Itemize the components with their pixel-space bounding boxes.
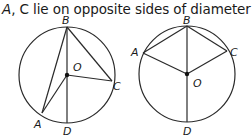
right-radius-oa [143, 53, 187, 74]
left-label-d: D [63, 125, 71, 136]
geometry-diagram: B O C A D B A C O D [0, 0, 252, 136]
right-label-o: O [193, 77, 202, 90]
right-radius-oc [187, 51, 227, 74]
right-chord-ba [143, 26, 187, 53]
left-radius-oc [67, 75, 112, 81]
left-chord-ba [42, 27, 67, 113]
right-label-b: B [183, 14, 191, 27]
right-center-dot [185, 72, 189, 76]
left-label-b: B [62, 14, 70, 27]
right-label-d: D [183, 125, 191, 136]
left-label-a: A [33, 118, 42, 131]
left-center-dot [65, 73, 69, 77]
left-label-o: O [73, 61, 82, 74]
right-label-a: A [130, 46, 139, 59]
right-label-c: C [230, 46, 238, 59]
left-radius-oa [42, 75, 67, 113]
left-label-c: C [113, 80, 121, 93]
